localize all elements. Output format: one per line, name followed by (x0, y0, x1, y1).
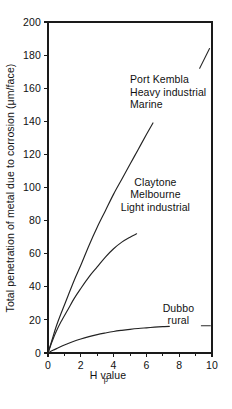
y-axis-title: Total penetration of metal due to corros… (4, 64, 16, 313)
x-axis-title: H value (90, 369, 126, 381)
y-tick-label: 180 (23, 49, 41, 61)
y-tick-label: 200 (23, 16, 41, 28)
y-tick-label: 60 (29, 247, 41, 259)
y-tick-label: 140 (23, 115, 41, 127)
x-tick-label: 2 (78, 359, 84, 371)
claytone-label-line: Melbourne (130, 188, 181, 200)
y-tick-label: 120 (23, 148, 41, 160)
dubbo-label-line: rural (168, 314, 190, 326)
y-axis-title-group: Total penetration of metal due to corros… (4, 64, 16, 313)
y-tick-label: 100 (23, 181, 41, 193)
y-tick-label: 160 (23, 82, 41, 94)
chart-figure: 020406080100120140160180200 0246810 Port… (0, 0, 232, 409)
claytone-label-line: Claytone (134, 176, 176, 188)
y-tick-label: 20 (29, 314, 41, 326)
x-tick-label: 0 (45, 359, 51, 371)
x-tick-label: 6 (143, 359, 149, 371)
x-tick-label: 8 (176, 359, 182, 371)
x-tick-label: 10 (206, 359, 218, 371)
corrosion-line-chart: 020406080100120140160180200 0246810 Port… (0, 0, 232, 409)
port-kembla-label-line: Heavy industrial (130, 86, 206, 98)
y-tick-label: 40 (29, 280, 41, 292)
claytone-label-line: Light industrial (121, 201, 190, 213)
port-kembla-label-line: Port Kembla (130, 73, 189, 85)
port-kembla-label-line: Marine (130, 98, 163, 110)
y-tick-label: 0 (35, 347, 41, 359)
y-tick-label: 80 (29, 214, 41, 226)
dubbo-label-line: Dubbo (163, 302, 195, 314)
